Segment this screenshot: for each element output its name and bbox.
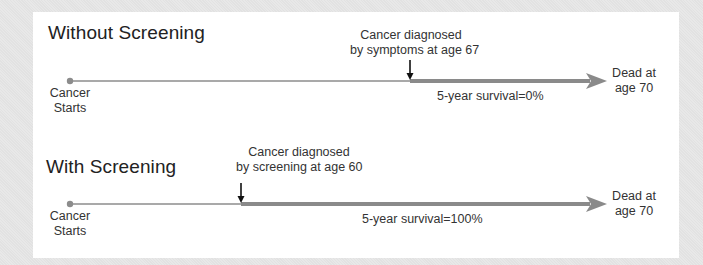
death-label-line1: Dead at — [608, 66, 660, 81]
diagnosis-label-line2: by screening at age 60 — [236, 160, 362, 175]
death-label-line2: age 70 — [608, 204, 660, 219]
timeline-without-screening — [67, 60, 607, 89]
diagnosis-marker-arrow-icon — [238, 183, 245, 203]
section-title-with-screening: With Screening — [46, 156, 176, 178]
diagnosis-label-with-screening: Cancer diagnosed by screening at age 60 — [236, 145, 362, 174]
cancer-starts-line2: Starts — [46, 101, 94, 116]
section-title-without-screening: Without Screening — [48, 22, 205, 44]
cancer-starts-line2: Starts — [46, 224, 94, 239]
cancer-starts-label: Cancer Starts — [46, 209, 94, 239]
diagnosis-label-line1: Cancer diagnosed — [236, 145, 362, 160]
diagnosis-label-without-screening: Cancer diagnosed by symptoms at age 67 — [350, 28, 472, 57]
death-label-with-screening: Dead at age 70 — [608, 189, 660, 219]
survival-label-with-screening: 5-year survival=100% — [362, 212, 483, 227]
cancer-starts-label: Cancer Starts — [46, 86, 94, 116]
survival-label-without-screening: 5-year survival=0% — [437, 89, 544, 104]
death-label-line2: age 70 — [608, 81, 660, 96]
death-label-line1: Dead at — [608, 189, 660, 204]
death-label-without-screening: Dead at age 70 — [608, 66, 660, 96]
cancer-starts-line1: Cancer — [46, 209, 94, 224]
diagnosis-label-line2: by symptoms at age 67 — [350, 43, 472, 58]
diagnosis-marker-arrow-icon — [407, 60, 414, 80]
timeline-with-screening — [67, 183, 607, 212]
diagnosis-label-line1: Cancer diagnosed — [350, 28, 472, 43]
cancer-starts-line1: Cancer — [46, 86, 94, 101]
